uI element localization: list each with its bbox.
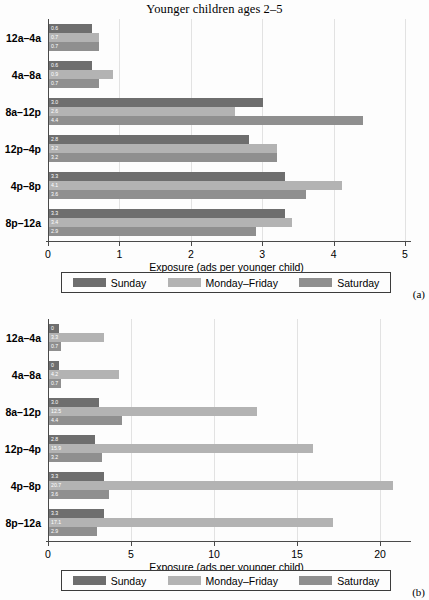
bar-row: 4.2	[49, 370, 406, 379]
bar-row: 0.9	[49, 70, 406, 79]
legend-item[interactable]: Saturday	[299, 277, 379, 289]
bar-value-label: 12.5	[51, 407, 61, 416]
category-group: 12a–4a03.30.7	[48, 324, 405, 351]
bar[interactable]	[49, 209, 285, 218]
bar-row: 0.6	[49, 24, 406, 33]
bar[interactable]	[49, 172, 285, 181]
legend-item[interactable]: Monday–Friday	[168, 277, 278, 289]
legend-item[interactable]: Sunday	[73, 277, 147, 289]
bar[interactable]	[49, 116, 363, 125]
bar-row: 3.3	[49, 472, 406, 481]
bar[interactable]	[49, 153, 277, 162]
bar-row: 2.8	[49, 435, 406, 444]
category-group: 8p–12a3.317.12.9	[48, 509, 405, 536]
bar[interactable]	[49, 444, 313, 453]
bar[interactable]	[49, 227, 256, 236]
bar-value-label: 3.0	[51, 398, 58, 407]
plot-inner-a: 12a–4a0.60.70.74a–8a0.60.90.78a–12p3.02.…	[48, 19, 405, 241]
bar[interactable]	[49, 190, 306, 199]
bar[interactable]	[49, 481, 393, 490]
legend-swatch-monday-friday	[168, 278, 201, 287]
legend-label: Saturday	[337, 277, 379, 289]
x-tick-mark	[334, 242, 335, 246]
bar-row: 4.4	[49, 116, 406, 125]
bar[interactable]	[49, 107, 235, 116]
bar-row: 12.5	[49, 407, 406, 416]
bar-row: 0.7	[49, 33, 406, 42]
bar-row: 2.9	[49, 527, 406, 536]
bar-value-label: 3.2	[51, 453, 58, 462]
bar[interactable]	[49, 370, 119, 379]
gridline	[297, 319, 298, 541]
bar[interactable]	[49, 416, 122, 425]
legend-item[interactable]: Monday–Friday	[168, 575, 278, 587]
bar-value-label: 0	[51, 361, 54, 370]
legend-swatch-sunday	[73, 278, 106, 287]
gridline	[119, 19, 120, 241]
category-group: 4a–8a0.60.90.7	[48, 61, 405, 88]
y-category-label: 12a–4a	[6, 332, 41, 344]
bar[interactable]	[49, 70, 113, 79]
category-group: 4p–8p3.34.13.6	[48, 172, 405, 199]
x-tick-mark	[48, 242, 49, 246]
x-tick-mark	[48, 542, 49, 546]
bar[interactable]	[49, 407, 257, 416]
x-tick-label: 3	[259, 248, 265, 260]
bar-value-label: 0	[51, 324, 54, 333]
bar-row: 17.1	[49, 518, 406, 527]
bar[interactable]	[49, 181, 342, 190]
legend-item[interactable]: Sunday	[73, 575, 147, 587]
x-tick-label: 20	[374, 548, 386, 560]
bar-row: 0.7	[49, 342, 406, 351]
figure-root: Younger children ages 2–5 12a–4a0.60.70.…	[0, 0, 429, 600]
bar-value-label: 3.3	[51, 172, 58, 181]
x-tick-label: 4	[331, 248, 337, 260]
legend-swatch-monday-friday	[168, 576, 201, 585]
bar-value-label: 20.7	[51, 481, 61, 490]
bar-value-label: 3.3	[51, 509, 58, 518]
x-tick-mark	[191, 242, 192, 246]
bar-row: 0.7	[49, 79, 406, 88]
bar-row: 0.7	[49, 379, 406, 388]
bar-value-label: 0.7	[51, 79, 58, 88]
bar-value-label: 3.3	[51, 209, 58, 218]
bar-row: 3.3	[49, 209, 406, 218]
x-tick-label: 10	[208, 548, 220, 560]
bar-value-label: 0.7	[51, 342, 58, 351]
bar[interactable]	[49, 218, 292, 227]
x-tick-label: 1	[116, 248, 122, 260]
bar-value-label: 0.7	[51, 42, 58, 51]
legend-item[interactable]: Saturday	[299, 575, 379, 587]
bar[interactable]	[49, 98, 263, 107]
bar-value-label: 3.3	[51, 333, 58, 342]
bar-row: 20.7	[49, 481, 406, 490]
y-category-label: 12p–4p	[5, 143, 41, 155]
category-group: 8a–12p3.012.54.4	[48, 398, 405, 425]
plot-area-b: 12a–4a03.30.74a–8a04.20.78a–12p3.012.54.…	[48, 319, 405, 541]
bar-value-label: 3.2	[51, 144, 58, 153]
x-tick-label: 5	[128, 548, 134, 560]
bar-value-label: 3.2	[51, 153, 58, 162]
bar-value-label: 2.8	[51, 435, 58, 444]
bar-value-label: 2.9	[51, 227, 58, 236]
gridline	[334, 19, 335, 241]
x-tick-label: 2	[188, 248, 194, 260]
bar[interactable]	[49, 144, 277, 153]
bar-row: 4.4	[49, 416, 406, 425]
bar[interactable]	[49, 518, 333, 527]
x-tick-mark	[131, 542, 132, 546]
bar-row: 3.6	[49, 190, 406, 199]
bar[interactable]	[49, 135, 249, 144]
bar-value-label: 3.3	[51, 472, 58, 481]
panel-a: Younger children ages 2–5 12a–4a0.60.70.…	[0, 0, 429, 305]
bar-row: 2.6	[49, 107, 406, 116]
bar-value-label: 3.6	[51, 190, 58, 199]
x-tick-mark	[380, 542, 381, 546]
bar-row: 3.6	[49, 490, 406, 499]
bar-row: 2.8	[49, 135, 406, 144]
x-tick-label: 0	[45, 548, 51, 560]
legend-b: SundayMonday–FridaySaturday	[61, 570, 391, 591]
y-category-label: 8p–12a	[5, 217, 41, 229]
legend-label: Sunday	[111, 575, 147, 587]
x-tick-mark	[119, 242, 120, 246]
